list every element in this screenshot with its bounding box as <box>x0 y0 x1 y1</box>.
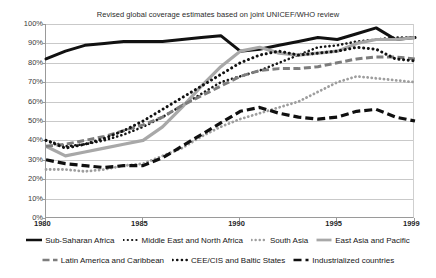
y-axis-tick-label: 30% <box>0 155 43 164</box>
chart-legend: Sub-Saharan AfricaMiddle East and North … <box>0 230 436 270</box>
legend-item-cee-cis-and-baltic-states[interactable]: CEE/CIS and Baltic States <box>172 256 285 265</box>
x-axis-tick-label: 1999 <box>403 219 420 228</box>
legend-item-sub-saharan-africa[interactable]: Sub-Saharan Africa <box>26 236 114 245</box>
legend-label: South Asia <box>270 236 308 245</box>
y-axis-tick-label: 40% <box>0 135 43 144</box>
legend-swatch-icon <box>293 256 309 264</box>
legend-label: Middle East and North Africa <box>142 236 243 245</box>
legend-row: Sub-Saharan AfricaMiddle East and North … <box>0 230 436 250</box>
x-axis-tick-mark <box>414 218 415 221</box>
legend-row: Latin America and CaribbeanCEE/CIS and B… <box>0 250 436 270</box>
legend-label: Industrialized countries <box>312 256 394 265</box>
y-axis-tick-label: 50% <box>0 116 43 125</box>
series-line-latin-america-and-caribbean <box>46 57 415 146</box>
x-axis-tick-mark <box>336 218 337 221</box>
legend-swatch-icon <box>316 236 332 244</box>
legend-item-east-asia-and-pacific[interactable]: East Asia and Pacific <box>316 236 410 245</box>
legend-swatch-icon <box>123 236 139 244</box>
x-axis-tick-mark <box>239 218 240 221</box>
y-axis-tick-label: 10% <box>0 194 43 203</box>
chart-page: Revised global coverage estimates based … <box>0 0 436 278</box>
x-axis-tick-label: 1995 <box>325 219 342 228</box>
legend-label: Latin America and Caribbean <box>61 256 164 265</box>
legend-swatch-icon <box>172 256 188 264</box>
x-axis-tick-label: 1980 <box>34 219 51 228</box>
y-axis-tick-label: 90% <box>0 38 43 47</box>
x-axis-tick-mark <box>45 218 46 221</box>
legend-item-south-asia[interactable]: South Asia <box>251 236 308 245</box>
y-axis-tick-label: 80% <box>0 58 43 67</box>
chart-title: Revised global coverage estimates based … <box>0 10 436 19</box>
legend-item-industrialized-countries[interactable]: Industrialized countries <box>293 256 394 265</box>
legend-label: CEE/CIS and Baltic States <box>191 256 285 265</box>
y-axis-tick-label: 100% <box>0 19 43 28</box>
y-axis-tick-label: 20% <box>0 174 43 183</box>
series-line-middle-east-and-north-africa <box>46 38 415 147</box>
legend-label: East Asia and Pacific <box>335 236 410 245</box>
legend-swatch-icon <box>26 236 42 244</box>
legend-swatch-icon <box>42 256 58 264</box>
series-line-cee-cis-and-baltic-states <box>46 47 415 148</box>
y-axis-tick-label: 60% <box>0 97 43 106</box>
x-axis-tick-label: 1985 <box>131 219 148 228</box>
plot-area <box>45 24 414 218</box>
legend-label: Sub-Saharan Africa <box>45 236 114 245</box>
legend-item-middle-east-and-north-africa[interactable]: Middle East and North Africa <box>123 236 243 245</box>
series-lines <box>46 24 415 218</box>
y-axis-tick-label: 70% <box>0 77 43 86</box>
legend-item-latin-america-and-caribbean[interactable]: Latin America and Caribbean <box>42 256 164 265</box>
series-line-south-asia <box>46 76 415 171</box>
legend-swatch-icon <box>251 236 267 244</box>
x-axis-tick-label: 1990 <box>228 219 245 228</box>
x-axis-tick-mark <box>142 218 143 221</box>
